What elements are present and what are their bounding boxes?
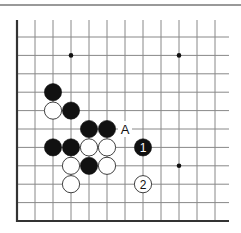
black-stone bbox=[62, 139, 79, 156]
black-stone bbox=[80, 120, 97, 137]
white-stone bbox=[44, 102, 61, 119]
star-point-icon bbox=[177, 164, 182, 169]
move-number-2: 2 bbox=[140, 178, 147, 192]
go-board-diagram: 12 A bbox=[0, 0, 241, 233]
white-stone bbox=[62, 157, 79, 174]
stones: 12 bbox=[44, 84, 151, 193]
black-stone bbox=[80, 157, 97, 174]
black-stone bbox=[44, 139, 61, 156]
white-stone bbox=[80, 139, 97, 156]
board-labels: A bbox=[118, 121, 132, 137]
board-label-a: A bbox=[121, 122, 130, 137]
move-number-1: 1 bbox=[140, 141, 147, 155]
black-stone bbox=[44, 84, 61, 101]
star-point-icon bbox=[177, 53, 182, 58]
white-stone bbox=[62, 176, 79, 193]
black-stone bbox=[62, 102, 79, 119]
white-stone bbox=[98, 157, 115, 174]
black-stone bbox=[98, 120, 115, 137]
white-stone bbox=[98, 139, 115, 156]
star-point-icon bbox=[69, 53, 74, 58]
